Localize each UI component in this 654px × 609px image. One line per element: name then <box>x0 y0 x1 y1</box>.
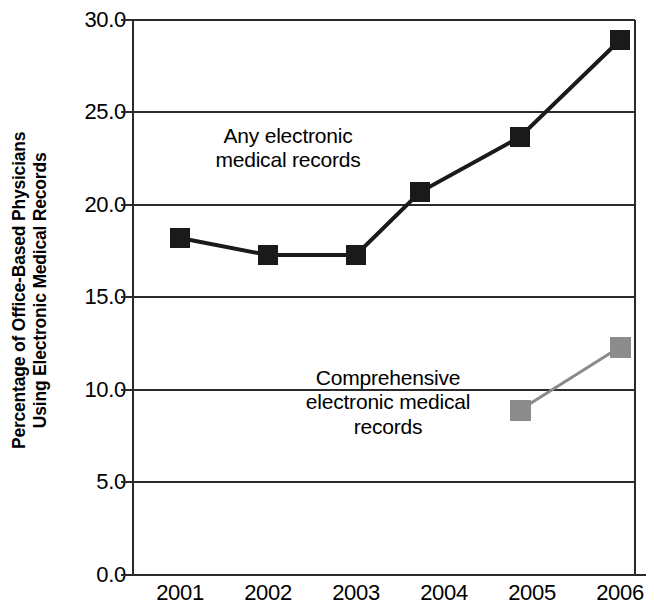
annotation-comprehensive-emr-line-2: electronic medical <box>306 390 470 414</box>
annotation-comprehensive-emr-line-3: records <box>306 415 470 439</box>
chart-figure: Percentage of Office-Based Physicians Us… <box>0 0 654 609</box>
annotation-comprehensive-emr-line-1: Comprehensive <box>306 366 470 390</box>
series-any-emr-marker-2001 <box>170 228 190 248</box>
x-tick-2003: 2003 <box>332 580 380 606</box>
series-any-emr-marker-2004 <box>410 182 430 202</box>
x-tick-2001: 2001 <box>156 580 204 606</box>
annotation-comprehensive-emr: Comprehensive electronic medical records <box>306 366 470 439</box>
plot-area <box>0 0 654 609</box>
y-tick-marks <box>121 20 133 575</box>
series-any-emr-marker-2003 <box>346 245 366 265</box>
annotation-any-emr-line-2: medical records <box>215 148 360 172</box>
series-comprehensive-emr-line <box>520 347 620 410</box>
series-any-emr-marker-2005 <box>510 127 530 147</box>
annotation-any-emr-line-1: Any electronic <box>215 124 360 148</box>
x-tick-2002: 2002 <box>244 580 292 606</box>
series-comprehensive-emr <box>510 337 631 421</box>
series-comprehensive-emr-marker-2006 <box>610 337 631 358</box>
x-tick-2005: 2005 <box>508 580 556 606</box>
series-any-emr-marker-2002 <box>258 245 278 265</box>
x-tick-2006: 2006 <box>596 580 644 606</box>
series-comprehensive-emr-marker-2005 <box>510 400 531 421</box>
series-any-emr-marker-2006 <box>610 30 630 50</box>
annotation-any-emr: Any electronic medical records <box>215 124 360 173</box>
x-tick-2004: 2004 <box>420 580 468 606</box>
